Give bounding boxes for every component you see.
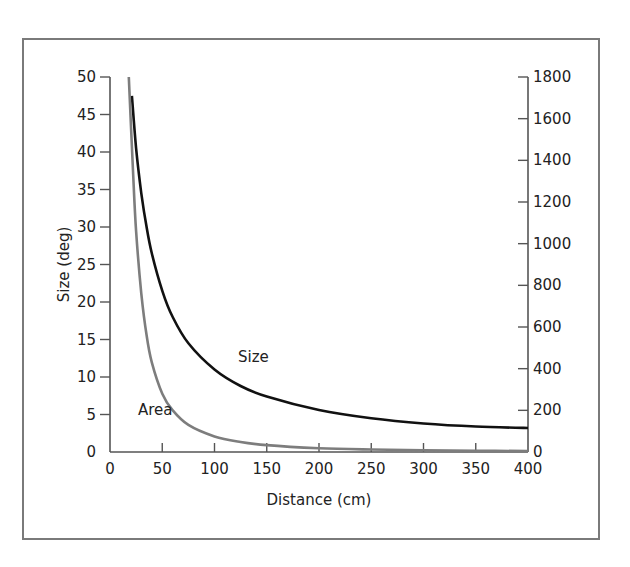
y2-tick-label: 1600: [533, 110, 571, 128]
x-tick-label: 350: [461, 460, 490, 478]
x-tick-label: 50: [153, 460, 172, 478]
y-tick-label: 45: [77, 106, 96, 124]
y-axis-title: Size (deg): [55, 227, 73, 303]
x-tick-label: 150: [252, 460, 281, 478]
y2-tick-label: 1800: [533, 68, 571, 86]
y-tick-label: 35: [77, 181, 96, 199]
x-tick-label: 200: [305, 460, 334, 478]
y-tick-label: 10: [77, 368, 96, 386]
size-series-label: Size: [238, 348, 269, 366]
y-tick-label: 20: [77, 293, 96, 311]
series-lines: [129, 77, 528, 451]
y-tick-label: 40: [77, 143, 96, 161]
x-tick-label: 0: [105, 460, 115, 478]
y2-tick-label: 1200: [533, 193, 571, 211]
y2-tick-label: 1400: [533, 151, 571, 169]
y-tick-label: 15: [77, 331, 96, 349]
x-tick-label: 100: [200, 460, 229, 478]
series-line-area: [129, 77, 528, 451]
x-tick-label: 400: [514, 460, 543, 478]
y2-tick-label: 1000: [533, 235, 571, 253]
y2-tick-label: 0: [533, 443, 543, 461]
y2-tick-label: 800: [533, 276, 562, 294]
series-line-size: [132, 96, 528, 428]
y-tick-label: 25: [77, 256, 96, 274]
y2-tick-label: 600: [533, 318, 562, 336]
x-axis-title: Distance (cm): [267, 491, 372, 509]
y-tick-label: 5: [86, 406, 96, 424]
x-tick-label: 250: [357, 460, 386, 478]
x-tick-label: 300: [409, 460, 438, 478]
y2-tick-label: 400: [533, 360, 562, 378]
area-series-label: Area: [138, 401, 173, 419]
y-tick-label: 0: [86, 443, 96, 461]
axes: [110, 77, 528, 452]
chart-svg: 0501001502002503003504000510152025303540…: [0, 0, 630, 567]
y2-tick-label: 200: [533, 401, 562, 419]
y-tick-label: 50: [77, 68, 96, 86]
y-tick-label: 30: [77, 218, 96, 236]
